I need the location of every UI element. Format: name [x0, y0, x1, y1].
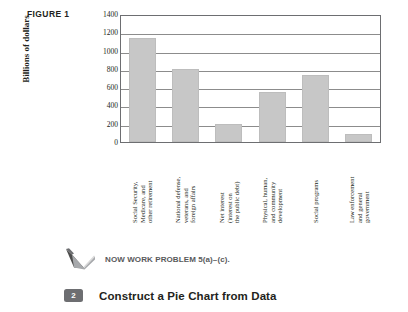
y-axis-tick-label: 400 — [96, 102, 118, 110]
objective-number-badge: 2 — [64, 289, 83, 302]
bar — [129, 38, 156, 142]
y-axis-tick-label: 1400 — [96, 11, 118, 19]
x-axis-category-cell: Social programs — [302, 145, 329, 223]
x-axis-category-labels: Social Security, Medicare, and other ret… — [120, 145, 381, 225]
y-axis-tick-labels: 1400120010008006004002000 — [96, 0, 118, 160]
y-axis-title: Billions of dollars — [21, 0, 31, 109]
objective-title: Construct a Pie Chart from Data — [99, 290, 277, 302]
y-axis-tick-label: 1000 — [96, 48, 118, 56]
bar — [259, 92, 286, 142]
x-axis-category-cell: Physical, human, and community developme… — [259, 145, 286, 223]
y-axis-tick-label: 1200 — [96, 29, 118, 37]
bar — [172, 69, 199, 142]
x-axis-category-cell: Net interest (interest on the public deb… — [215, 145, 242, 223]
y-axis-tick-label: 0 — [96, 139, 118, 147]
now-work-problem-text: NOW WORK PROBLEM 5(a)–(c). — [105, 255, 230, 264]
y-axis-tick-label: 200 — [96, 121, 118, 129]
x-axis-category-label: National defense, veterans, and foreign … — [174, 145, 197, 223]
plot-area — [120, 15, 381, 143]
x-axis-category-cell: National defense, veterans, and foreign … — [172, 145, 199, 223]
x-axis-category-label: Net interest (interest on the public deb… — [217, 145, 240, 223]
x-axis-category-cell: Social Security, Medicare, and other ret… — [128, 145, 155, 223]
x-axis-category-label: Social Security, Medicare, and other ret… — [130, 145, 153, 223]
bar — [345, 134, 372, 142]
bar — [302, 75, 329, 142]
pencil-check-icon — [64, 248, 98, 270]
y-axis-tick-label: 800 — [96, 66, 118, 74]
x-axis-category-cell: Law enforcement and general government — [346, 145, 373, 223]
objective-heading: 2 Construct a Pie Chart from Data — [64, 289, 277, 302]
bar-series — [121, 16, 380, 142]
x-axis-category-label: Law enforcement and general government — [348, 145, 371, 223]
x-axis-category-label: Social programs — [312, 145, 320, 223]
now-work-problem-row: NOW WORK PROBLEM 5(a)–(c). — [64, 248, 230, 270]
bar-chart: Billions of dollars 14001200100080060040… — [0, 0, 408, 230]
bar — [215, 124, 242, 142]
x-axis-category-label: Physical, human, and community developme… — [261, 145, 284, 223]
y-axis-tick-label: 600 — [96, 84, 118, 92]
